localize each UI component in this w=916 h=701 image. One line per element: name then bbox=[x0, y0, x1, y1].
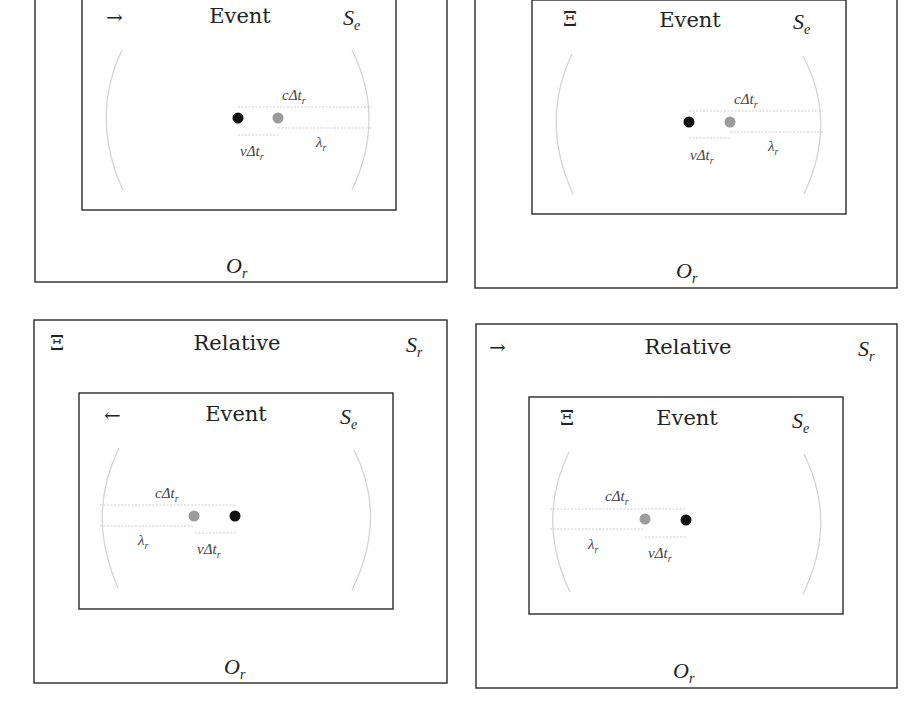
source-dot bbox=[681, 515, 692, 526]
outer-title: Relative bbox=[194, 331, 281, 355]
source-dot bbox=[230, 511, 241, 522]
wavefront-right-arc bbox=[352, 50, 369, 190]
label-c-dt: cΔtr bbox=[155, 485, 179, 504]
emission-dot bbox=[640, 514, 651, 525]
label-c-dt: cΔtr bbox=[605, 488, 629, 507]
source-dot bbox=[684, 117, 695, 128]
inner-title: Event bbox=[209, 4, 271, 28]
inner-title: Event bbox=[659, 8, 721, 32]
panel-bottom-left: Ξ Relative Sr ← Event Se cΔtr λr vΔtr Or bbox=[34, 320, 447, 683]
label-v-dt: vΔtr bbox=[690, 147, 714, 166]
frame-label-sr: Sr bbox=[858, 336, 875, 364]
source-dot bbox=[233, 113, 244, 124]
inner-title: Event bbox=[205, 402, 267, 426]
panel-bottom-right: → Relative Sr Ξ Event Se cΔtr λr vΔtr Or bbox=[476, 324, 897, 688]
frame-label-se: Se bbox=[343, 5, 360, 33]
label-lambda: λr bbox=[587, 536, 599, 555]
observer-label: Or bbox=[224, 654, 246, 682]
wavefront-left-arc bbox=[553, 452, 570, 592]
frame-label-se: Se bbox=[792, 408, 809, 436]
xi-stationary-icon: Ξ bbox=[560, 406, 574, 430]
panel-top-right: Ξ Event Se cΔtr λr vΔtr Or bbox=[475, 0, 897, 288]
label-c-dt: cΔtr bbox=[734, 91, 758, 110]
wavefront-right-arc bbox=[803, 454, 821, 594]
emission-dot bbox=[273, 113, 284, 124]
emission-dot bbox=[189, 511, 200, 522]
arrow-left-icon: ← bbox=[104, 403, 121, 427]
label-c-dt: cΔtr bbox=[282, 87, 306, 106]
xi-stationary-icon: Ξ bbox=[50, 331, 64, 355]
wavefront-right-arc bbox=[803, 56, 821, 194]
wavefront-right-arc bbox=[352, 450, 371, 590]
xi-stationary-icon: Ξ bbox=[563, 7, 577, 31]
outer-frame-relative bbox=[476, 324, 897, 688]
outer-frame-relative bbox=[34, 320, 447, 683]
label-v-dt: vΔtr bbox=[197, 541, 221, 560]
wavefront-left-arc bbox=[102, 448, 119, 588]
arrow-right-icon: → bbox=[489, 335, 506, 359]
label-lambda: λr bbox=[767, 138, 779, 157]
observer-label: Or bbox=[676, 258, 698, 286]
frame-label-sr: Sr bbox=[406, 332, 423, 360]
label-v-dt: vΔtr bbox=[648, 545, 672, 564]
observer-label: Or bbox=[226, 253, 248, 281]
inner-frame-event bbox=[82, 0, 396, 210]
frame-label-se: Se bbox=[793, 9, 810, 37]
arrow-right-icon: → bbox=[106, 5, 123, 29]
wavefront-left-arc bbox=[106, 50, 123, 190]
label-v-dt: vΔtr bbox=[240, 143, 264, 162]
emission-dot bbox=[725, 117, 736, 128]
frame-label-se: Se bbox=[340, 404, 357, 432]
label-lambda: λr bbox=[137, 532, 149, 551]
doppler-diagram: → Event Se cΔtr λr vΔtr Or Ξ Event Se cΔ… bbox=[0, 0, 916, 701]
outer-title: Relative bbox=[645, 335, 732, 359]
inner-title: Event bbox=[656, 406, 718, 430]
wavefront-left-arc bbox=[556, 54, 573, 194]
observer-label: Or bbox=[673, 658, 695, 686]
outer-frame-relative bbox=[475, 0, 897, 288]
label-lambda: λr bbox=[315, 134, 327, 153]
panel-top-left: → Event Se cΔtr λr vΔtr Or bbox=[35, 0, 447, 282]
outer-frame-relative bbox=[35, 0, 447, 282]
